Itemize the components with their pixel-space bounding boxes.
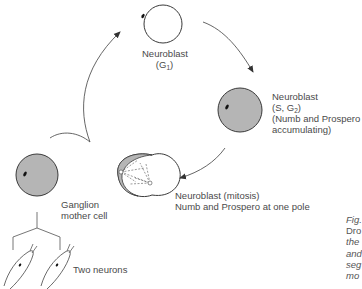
- arrow-mitosis-to-g1: [84, 32, 120, 142]
- caption-line-4: and: [346, 248, 362, 259]
- arrow-g1-to-sg2: [203, 22, 253, 72]
- label-sg2-note-1: (Numb and Prospero: [272, 113, 360, 124]
- label-mitosis-note: Numb and Prospero at one pole: [175, 201, 310, 212]
- label-gmc-line1: Ganglion: [61, 199, 107, 210]
- arrow-sg2-to-mitosis: [180, 148, 225, 178]
- label-g1-name: Neuroblast: [142, 48, 187, 59]
- label-mitosis-name: Neuroblast (mitosis): [175, 190, 310, 201]
- division-branch: [13, 212, 60, 250]
- caption-line-5: seg: [346, 259, 362, 270]
- neuron-right: [41, 244, 74, 289]
- caption-line-6: mo: [346, 270, 362, 281]
- arrow-branch-to-gmc: [50, 133, 90, 142]
- label-neuroblast-mitosis: Neuroblast (mitosis) Numb and Prospero a…: [175, 190, 310, 212]
- label-gmc-line2: mother cell: [61, 210, 107, 221]
- label-sg2-name: Neuroblast: [272, 91, 360, 102]
- label-ganglion-mother-cell: Ganglion mother cell: [61, 199, 107, 221]
- label-sg2-phase: (S, G2): [272, 102, 360, 113]
- ganglion-mother-cell: [16, 154, 58, 196]
- label-g1-phase: (G1): [142, 59, 187, 70]
- neuroblast-g1-cell: [141, 5, 182, 43]
- label-neuroblast-s-g2: Neuroblast (S, G2) (Numb and Prospero ac…: [272, 91, 360, 135]
- label-neuroblast-g1: Neuroblast (G1): [142, 48, 187, 70]
- label-two-neurons: Two neurons: [73, 264, 127, 275]
- caption-line-2: Dro: [346, 225, 362, 236]
- label-sg2-note-2: accumulating): [272, 124, 360, 135]
- neuron-left: [4, 244, 37, 289]
- neuroblast-s-g2-cell: [218, 88, 262, 132]
- caption-line-1: Fig.: [346, 214, 362, 225]
- neuroblast-mitosis-cell: [118, 154, 181, 197]
- figure-caption: Fig. Dro the and seg mo: [346, 214, 362, 281]
- caption-line-3: the: [346, 236, 362, 247]
